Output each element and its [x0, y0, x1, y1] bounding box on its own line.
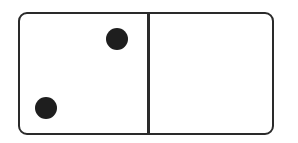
domino-tile: [18, 12, 274, 135]
pip-dot: [35, 97, 57, 119]
pip-dot: [106, 28, 128, 50]
domino-right-half: [150, 14, 274, 133]
